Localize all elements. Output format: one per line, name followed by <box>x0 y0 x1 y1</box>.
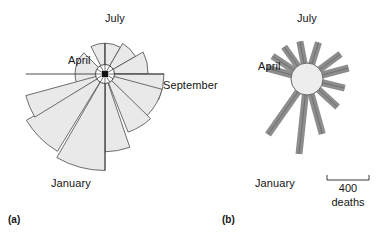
panel-id-b: (b) <box>222 214 235 225</box>
scale-bar <box>327 175 369 180</box>
panel-id-a: (a) <box>8 214 20 225</box>
figure-nightingale-comparison: April July September January (a) April J… <box>0 0 384 237</box>
hub-core-square <box>102 71 108 77</box>
label-april-panel-b: April <box>258 61 281 73</box>
label-january-panel-a: January <box>51 178 91 190</box>
coxcomb-wedges <box>26 43 164 170</box>
scale-bar-value: 400 <box>320 182 376 194</box>
scale-bar-unit: deaths <box>320 196 376 208</box>
label-july-panel-a: July <box>105 13 125 25</box>
starplot-spokes <box>267 41 349 154</box>
label-april-panel-a: April <box>68 55 91 67</box>
label-july-panel-b: July <box>297 13 317 25</box>
label-september-panel-a: September <box>163 80 218 92</box>
starplot-hub-circle <box>291 63 323 95</box>
coxcomb-hub <box>96 65 115 84</box>
label-january-panel-b: January <box>255 178 295 190</box>
